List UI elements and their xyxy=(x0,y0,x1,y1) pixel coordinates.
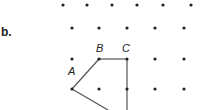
grid-dot xyxy=(125,26,128,29)
grid-dot xyxy=(97,57,100,60)
grid-dot xyxy=(125,57,128,60)
grid-dot xyxy=(135,3,138,6)
point-label-C: C xyxy=(122,42,130,54)
grid-dot xyxy=(125,87,128,90)
grid-dot xyxy=(70,57,73,60)
grid-dot xyxy=(153,87,156,90)
grid-dot xyxy=(110,3,113,6)
grid-dot xyxy=(161,3,164,6)
grid-dot xyxy=(189,3,192,6)
grid-dot xyxy=(182,26,185,29)
grid-dot xyxy=(85,3,88,6)
segment-A-B xyxy=(72,59,99,89)
grid-dot xyxy=(61,3,64,6)
grid-dot xyxy=(182,57,185,60)
segment-A-bottom xyxy=(72,89,108,110)
grid-dot xyxy=(70,26,73,29)
grid-dot xyxy=(97,26,100,29)
grid-dot xyxy=(153,26,156,29)
grid-dot xyxy=(70,87,73,90)
grid-dot xyxy=(153,57,156,60)
grid-dot xyxy=(97,87,100,90)
point-label-B: B xyxy=(96,42,103,54)
grid-dot xyxy=(182,87,185,90)
point-label-A: A xyxy=(67,65,75,77)
dot-grid-diagram: ABC xyxy=(0,0,200,110)
